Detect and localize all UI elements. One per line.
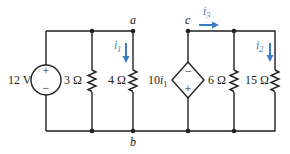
node-b-label: b xyxy=(130,135,136,149)
resistor-3-ohm-label: 3 Ω xyxy=(64,73,82,87)
resistor-6-ohm xyxy=(230,70,238,92)
current-i3-label: i3 xyxy=(203,4,210,20)
resistor-6-ohm-label: 6 Ω xyxy=(208,73,226,87)
dep-source-label: 10i1 xyxy=(148,73,167,89)
resistor-4-ohm xyxy=(129,70,137,92)
circuit-diagram: + − 12 V − + 10i1 3 Ω 4 Ω 6 Ω 15 Ω a b c… xyxy=(0,0,290,154)
source-label: 12 V xyxy=(8,73,32,87)
resistor-3-ohm xyxy=(88,70,96,92)
resistor-4-ohm-label: 4 Ω xyxy=(108,73,126,87)
resistor-15-ohm-label: 15 Ω xyxy=(245,73,269,87)
node-a-label: a xyxy=(130,13,136,27)
dep-source-minus-sign: − xyxy=(185,64,192,78)
current-arrow-i1 xyxy=(123,43,130,63)
dep-source-plus-sign: + xyxy=(185,82,192,96)
node-c-label: c xyxy=(185,13,191,27)
current-i1-label: i1 xyxy=(114,38,121,54)
current-arrow-i2 xyxy=(267,43,274,62)
resistor-15-ohm xyxy=(271,70,279,92)
current-arrow-i3 xyxy=(199,22,219,29)
current-i2-label: i2 xyxy=(256,38,263,54)
source-plus-sign: + xyxy=(43,64,50,78)
source-minus-sign: − xyxy=(43,81,50,95)
